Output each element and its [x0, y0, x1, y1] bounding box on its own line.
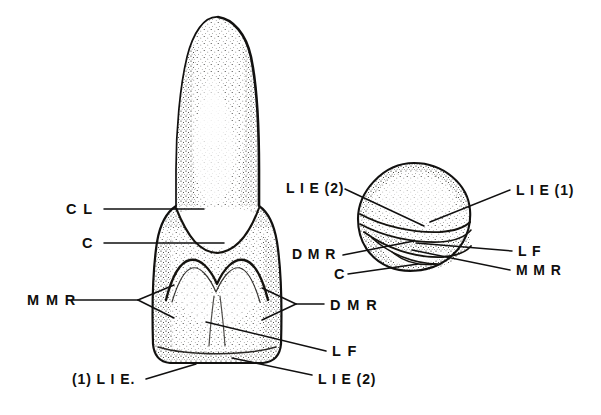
label-lie-2: L I E (2) [318, 371, 376, 387]
label-c: C [82, 235, 94, 251]
label-occlusal-c: C [334, 266, 346, 282]
label-mmr: M M R [27, 292, 77, 308]
label-occlusal-lie-2: L I E (2) [286, 180, 344, 196]
tooth-diagram-svg: C L C M M R (1) L I E. D M R L F L I E (… [0, 0, 601, 415]
label-occlusal-dmr: D M R [292, 246, 336, 262]
label-cl: C L [66, 201, 94, 217]
base-shading [148, 200, 288, 370]
label-occlusal-lf: L F [518, 243, 541, 259]
label-lie-1: (1) L I E. [72, 371, 135, 387]
figure-container: C L C M M R (1) L I E. D M R L F L I E (… [0, 0, 601, 415]
label-occlusal-mmr: M M R [516, 262, 562, 278]
label-occlusal-lie-1: L I E (1) [516, 182, 574, 198]
label-lf: L F [332, 343, 358, 359]
label-dmr: D M R [330, 297, 378, 313]
